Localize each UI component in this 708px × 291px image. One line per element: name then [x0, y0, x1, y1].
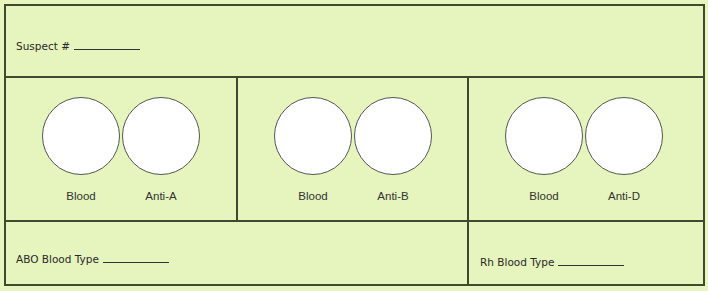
anti-a-label: Anti-A [122, 190, 200, 202]
anti-b-label: Anti-B [354, 190, 432, 202]
suspect-number-blank[interactable] [74, 48, 140, 50]
blood-label: Blood [505, 190, 583, 202]
anti-a-well[interactable] [122, 97, 200, 175]
anti-b-panel: Blood Anti-B [238, 78, 467, 220]
blood-well[interactable] [505, 97, 583, 175]
abo-type-field: ABO Blood Type [16, 253, 169, 265]
anti-d-label: Anti-D [585, 190, 663, 202]
anti-b-well[interactable] [354, 97, 432, 175]
blood-label: Blood [42, 190, 120, 202]
rh-type-blank[interactable] [558, 264, 624, 266]
result-row: ABO Blood Type Rh Blood Type [6, 222, 703, 284]
rh-type-field: Rh Blood Type [480, 256, 624, 268]
rh-type-label: Rh Blood Type [480, 256, 554, 268]
suspect-field: Suspect # [16, 40, 140, 52]
anti-d-well[interactable] [585, 97, 663, 175]
blood-label: Blood [274, 190, 352, 202]
blood-well[interactable] [42, 97, 120, 175]
suspect-label: Suspect # [16, 40, 70, 52]
divider [467, 222, 469, 284]
blood-well[interactable] [274, 97, 352, 175]
anti-d-panel: Blood Anti-D [469, 78, 703, 220]
abo-type-label: ABO Blood Type [16, 253, 99, 265]
blood-typing-worksheet: Suspect # Blood Anti-A Blood Anti-B Bloo… [4, 4, 705, 286]
abo-type-blank[interactable] [103, 261, 169, 263]
test-wells-row: Blood Anti-A Blood Anti-B Blood Anti-D [6, 78, 703, 222]
suspect-row: Suspect # [6, 6, 703, 78]
anti-a-panel: Blood Anti-A [6, 78, 236, 220]
